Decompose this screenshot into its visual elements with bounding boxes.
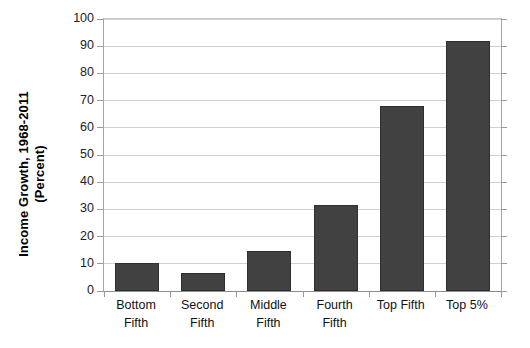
axis-tick [501,127,507,128]
y-axis-tick-label: 90 [66,39,94,52]
axis-tick [501,182,507,183]
axis-tick [97,209,103,210]
axis-tick [501,100,507,101]
y-axis-tick-label: 60 [66,120,94,133]
y-axis-tick-label: 100 [66,12,94,25]
axis-tick [501,19,507,20]
plot-area [103,18,502,292]
bar [247,251,291,291]
gridline [104,46,501,47]
axis-tick [97,73,103,74]
axis-tick [501,209,507,210]
gridline [104,19,501,20]
x-axis-tick-labels: BottomFifthSecondFifthMiddleFifthFourthF… [103,296,500,340]
bar [181,273,225,291]
y-axis-tick-label: 70 [66,93,94,106]
y-axis-tick-label: 80 [66,66,94,79]
gridline [104,73,501,74]
x-axis-tick-label: MiddleFifth [235,296,301,332]
y-axis-tick-label: 40 [66,175,94,188]
axis-tick [501,46,507,47]
y-axis-title-line-1: Income Growth, 1968-2011 [16,91,31,257]
gridline [104,236,501,237]
x-axis-tick-label: Top Fifth [368,296,434,314]
axis-tick [97,291,103,292]
bar [380,106,424,291]
y-axis-title: Income Growth, 1968-2011 (Percent) [0,0,62,348]
y-axis-tick-label: 0 [66,284,94,297]
bar [115,263,159,291]
x-axis-tick-label: BottomFifth [103,296,169,332]
y-axis-tick-label: 50 [66,148,94,161]
gridline [104,127,501,128]
axis-tick [97,46,103,47]
y-axis-tick-label: 20 [66,229,94,242]
y-axis-tick-label: 30 [66,202,94,215]
gridline [104,182,501,183]
y-axis-tick-labels: 0102030405060708090100 [60,18,94,290]
axis-tick [97,127,103,128]
gridline [104,100,501,101]
y-axis-tick-label: 10 [66,256,94,269]
axis-tick [501,73,507,74]
x-axis-tick-label: Top 5% [434,296,500,314]
axis-tick [97,19,103,20]
axis-tick [97,263,103,264]
axis-tick [97,155,103,156]
axis-tick [501,263,507,264]
axis-tick [501,155,507,156]
bar-chart: Income Growth, 1968-2011 (Percent) 01020… [0,0,530,348]
x-axis-tick-label: FourthFifth [302,296,368,332]
axis-tick [97,236,103,237]
axis-tick [97,100,103,101]
x-axis-tick-label: SecondFifth [169,296,235,332]
gridline [104,209,501,210]
bar [314,205,358,291]
x-axis-tick [501,291,502,297]
axis-tick [97,182,103,183]
gridline [104,155,501,156]
axis-tick [501,236,507,237]
bar [446,41,490,291]
gridline [104,263,501,264]
y-axis-title-line-2: (Percent) [32,145,47,202]
